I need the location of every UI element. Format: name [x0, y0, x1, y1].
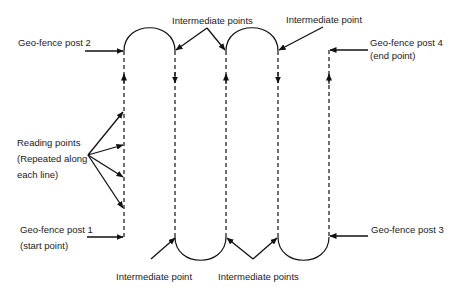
label-top-intermediate-point: Intermediate point — [286, 14, 362, 26]
bottom-intermediate-points-arrow-left — [227, 238, 253, 259]
reading-point-arrow-2 — [88, 145, 123, 155]
label-geo-fence-post-3: Geo-fence post 3 — [371, 224, 444, 236]
label-end-point: (end point) — [370, 50, 415, 62]
label-geo-fence-post-1: Geo-fence post 1 — [20, 224, 93, 236]
top-intermediate-points-arrow-right — [207, 28, 225, 50]
reading-point-arrow-3 — [88, 155, 123, 177]
label-geo-fence-post-2: Geo-fence post 2 — [18, 37, 91, 49]
label-reading-points: Reading points — [17, 137, 80, 149]
label-bottom-intermediate-point: Intermediate point — [116, 271, 192, 283]
bottom-turn-arc-1 — [175, 237, 226, 260]
top-intermediate-point-arrow — [279, 27, 323, 50]
bottom-turn-arc-2 — [278, 237, 329, 260]
label-bottom-intermediate-points: Intermediate points — [218, 271, 299, 283]
top-turn-arc-1 — [124, 28, 175, 51]
top-turn-arc-2 — [226, 28, 278, 51]
bottom-intermediate-point-arrow — [151, 238, 175, 259]
label-top-intermediate-points: Intermediate points — [172, 15, 253, 27]
label-reading-repeated: (Repeated along — [17, 153, 87, 165]
bottom-intermediate-points-arrow-right — [253, 238, 277, 259]
reading-point-arrow-1 — [88, 112, 123, 155]
label-reading-each-line: each line) — [17, 169, 58, 181]
top-intermediate-points-arrow-left — [176, 28, 207, 50]
label-geo-fence-post-4: Geo-fence post 4 — [370, 37, 443, 49]
reading-point-arrow-4 — [88, 155, 123, 208]
label-start-point: (start point) — [20, 240, 68, 252]
